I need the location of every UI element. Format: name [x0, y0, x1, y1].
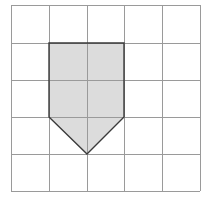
- shaded-pentagon: [49, 43, 124, 154]
- grid-diagram: [0, 0, 203, 201]
